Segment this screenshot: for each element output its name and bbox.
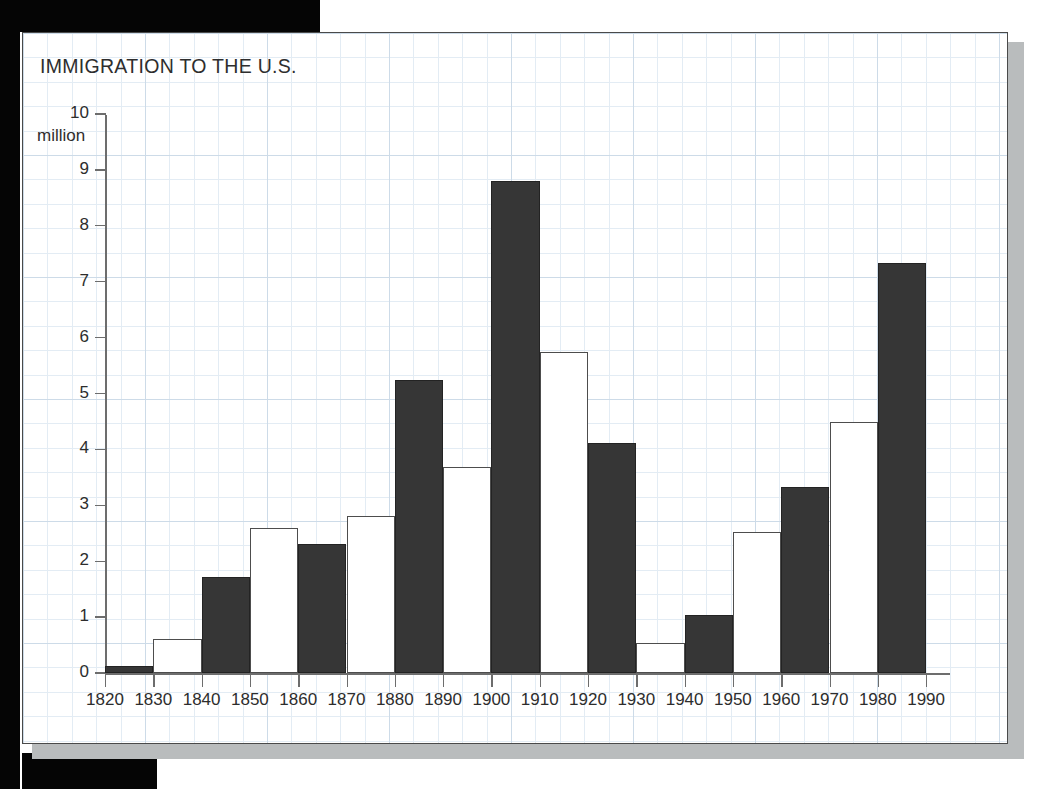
- y-tick-mark: [95, 393, 106, 394]
- x-tick-mark: [685, 674, 686, 687]
- x-tick-mark: [540, 674, 541, 687]
- y-tick-mark: [95, 505, 106, 506]
- y-tick-mark: [95, 561, 106, 562]
- y-axis-unit-label: million: [37, 126, 85, 146]
- x-tick-label: 1880: [371, 690, 419, 710]
- chart-panel: IMMIGRATION TO THE U.S. million 01234567…: [22, 32, 1008, 744]
- bar-1960-1970: [781, 487, 829, 673]
- y-tick-mark: [95, 337, 106, 338]
- x-tick-mark: [491, 674, 492, 687]
- x-tick-label: 1920: [564, 690, 612, 710]
- y-tick-mark: [95, 616, 106, 617]
- x-tick-label: 1870: [322, 690, 370, 710]
- x-tick-label: 1900: [467, 690, 515, 710]
- x-tick-label: 1960: [757, 690, 805, 710]
- x-tick-label: 1940: [660, 690, 708, 710]
- y-tick-label: 1: [43, 606, 89, 626]
- x-tick-label: 1970: [805, 690, 853, 710]
- y-tick-label: 4: [43, 438, 89, 458]
- y-tick-mark: [95, 169, 106, 170]
- y-tick-mark: [95, 281, 106, 282]
- x-tick-label: 1840: [177, 690, 225, 710]
- x-tick-mark: [443, 674, 444, 687]
- x-tick-label: 1860: [274, 690, 322, 710]
- x-tick-label: 1980: [854, 690, 902, 710]
- x-tick-mark: [153, 674, 154, 687]
- y-tick-label: 5: [43, 383, 89, 403]
- bar-1880-1890: [395, 380, 443, 673]
- x-tick-mark: [926, 674, 927, 687]
- bar-1830-1840: [153, 639, 201, 673]
- x-tick-mark: [588, 674, 589, 687]
- bar-1890-1900: [443, 467, 491, 673]
- bar-1840-1850: [202, 577, 250, 673]
- x-tick-mark: [781, 674, 782, 687]
- x-tick-label: 1820: [81, 690, 129, 710]
- y-tick-mark: [95, 225, 106, 226]
- x-tick-label: 1850: [226, 690, 274, 710]
- x-tick-label: 1890: [419, 690, 467, 710]
- y-tick-label: 9: [43, 159, 89, 179]
- page-edge-top-artifact: [0, 0, 320, 32]
- y-tick-label: 7: [43, 271, 89, 291]
- x-tick-mark: [636, 674, 637, 687]
- y-tick-label: 0: [43, 662, 89, 682]
- y-tick-mark: [95, 113, 106, 114]
- bar-1950-1960: [733, 532, 781, 673]
- y-axis-line: [105, 115, 107, 674]
- y-tick-label: 8: [43, 215, 89, 235]
- bar-1870-1880: [347, 516, 395, 673]
- x-tick-mark: [105, 674, 106, 687]
- y-tick-label: 2: [43, 550, 89, 570]
- x-axis-line: [105, 673, 950, 675]
- y-tick-mark: [95, 449, 106, 450]
- x-tick-label: 1990: [902, 690, 950, 710]
- bar-1930-1940: [636, 643, 684, 673]
- x-tick-label: 1910: [516, 690, 564, 710]
- bar-1970-1980: [830, 422, 878, 673]
- x-tick-mark: [878, 674, 879, 687]
- x-tick-label: 1930: [612, 690, 660, 710]
- x-tick-label: 1950: [709, 690, 757, 710]
- x-tick-mark: [298, 674, 299, 687]
- x-tick-mark: [733, 674, 734, 687]
- x-tick-mark: [347, 674, 348, 687]
- bar-1940-1950: [685, 615, 733, 673]
- page-edge-left-artifact: [0, 0, 20, 789]
- x-tick-mark: [250, 674, 251, 687]
- x-tick-label: 1830: [129, 690, 177, 710]
- plot-area: million 012345678910 1820183018401850186…: [23, 33, 1008, 744]
- bar-1920-1930: [588, 443, 636, 673]
- bar-1850-1860: [250, 528, 298, 673]
- y-tick-label: 10: [43, 103, 89, 123]
- bar-1820-1830: [105, 666, 153, 673]
- bar-1980-1990: [878, 263, 926, 673]
- bar-1910-1920: [540, 352, 588, 673]
- bar-1860-1870: [298, 544, 346, 673]
- x-tick-mark: [202, 674, 203, 687]
- x-tick-mark: [395, 674, 396, 687]
- y-tick-label: 3: [43, 494, 89, 514]
- y-tick-label: 6: [43, 327, 89, 347]
- x-tick-mark: [830, 674, 831, 687]
- bar-1900-1910: [491, 181, 539, 673]
